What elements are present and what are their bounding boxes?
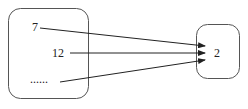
codomain-element-2: 2 (214, 46, 220, 60)
arrow-7-to-2 (40, 28, 205, 46)
mapping-diagram: 7 12 ...... 2 (0, 0, 248, 109)
arrow-ellipsis-to-2 (60, 60, 205, 82)
domain-element-7: 7 (32, 20, 38, 34)
domain-element-12: 12 (52, 46, 64, 60)
domain-element-ellipsis: ...... (30, 72, 48, 86)
